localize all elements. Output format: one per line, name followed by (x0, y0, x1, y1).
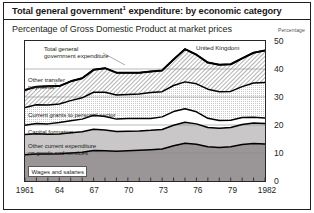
annotation-other-current-expenditure: Other current expenditure on goods and s… (28, 142, 96, 156)
x-axis-tick-1964: 64 (55, 185, 64, 195)
x-axis-tick-1973: 73 (159, 185, 168, 195)
chart-subtitle: Percentage of Gross Domestic Product at … (12, 24, 232, 34)
annotation-footnote-marker: 2 (54, 82, 56, 87)
x-axis-tick-1982: 1982 (258, 185, 276, 195)
x-axis-tick-1961: 1961 (16, 185, 34, 195)
region-label: United Kingdom (196, 44, 239, 51)
page-title: Total general government1 expenditure: b… (12, 6, 282, 16)
title-rest: expenditure: by economic category (126, 6, 282, 16)
chart-figure: Total general government1 expenditure: b… (0, 0, 314, 213)
x-axis-tick-1976: 76 (193, 185, 202, 195)
y-axis-tick-50: 50 (274, 36, 284, 46)
annotation-other-current-line1: Other current expenditure (28, 142, 96, 149)
annotation-total-expenditure: Total general government expenditure (44, 45, 109, 59)
annotation-other-current-line2: on goods and services (28, 149, 96, 156)
annotation-other-transfer-payments: Other transfer payments2 (28, 76, 65, 90)
annotation-wages-and-salaries: Wages and salaries (28, 166, 87, 177)
annotation-total-line2: government expenditure (44, 52, 109, 59)
annotation-total-line1: Total general (44, 45, 109, 52)
annotation-current-grants: Current grants to personal sector (28, 111, 115, 118)
x-axis-tick-1970: 70 (124, 185, 133, 195)
figure-title-bar: Total general government1 expenditure: b… (4, 3, 310, 20)
y-axis-tick-10: 10 (274, 148, 284, 158)
y-axis-unit-label: Percentage (278, 27, 305, 33)
y-axis: 01020304050 (268, 40, 308, 182)
x-axis-tick-1967: 67 (90, 185, 99, 195)
x-axis-tick-1979: 79 (228, 185, 237, 195)
title-main: Total general government (12, 6, 123, 16)
annotation-other-transfer-line2: payments2 (28, 83, 65, 90)
annotation-capital-formation: Capital formation (28, 128, 73, 135)
y-axis-tick-40: 40 (274, 64, 284, 74)
y-axis-tick-30: 30 (274, 92, 284, 102)
y-axis-tick-20: 20 (274, 120, 284, 130)
x-axis: 19616467707376791982 (24, 184, 266, 200)
annotation-other-transfer-text: payments (28, 83, 54, 90)
